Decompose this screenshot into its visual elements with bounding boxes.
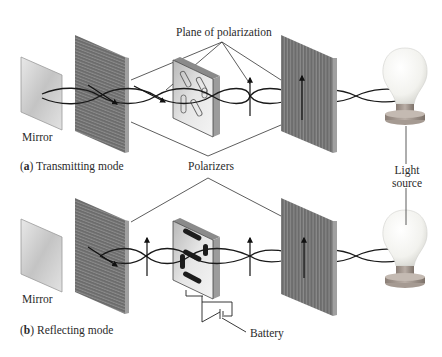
lcd-polarization-diagram: Plane of polarization Mirror (a) Transmi… bbox=[0, 0, 442, 357]
polarizer-2-bottom bbox=[281, 198, 337, 316]
caption-b: (b) Reflecting mode bbox=[20, 324, 113, 337]
light-source-label-line1: Light bbox=[390, 164, 424, 177]
panel-b-reflecting bbox=[21, 178, 427, 332]
panel-a-transmitting bbox=[21, 35, 427, 164]
mirror-top bbox=[21, 57, 62, 130]
plane-of-polarization-label: Plane of polarization bbox=[176, 26, 272, 39]
caption-a: (a) Transmitting mode bbox=[20, 160, 124, 173]
light-bulb-bottom bbox=[383, 210, 427, 288]
light-bulb-top bbox=[383, 48, 427, 125]
caption-a-text: Transmitting mode bbox=[36, 160, 123, 172]
caption-a-letter: a bbox=[24, 160, 30, 172]
lcd-cell-bottom bbox=[173, 218, 220, 299]
light-source-label-line2: source bbox=[390, 177, 424, 190]
mirror-label-bottom: Mirror bbox=[22, 293, 53, 306]
caption-b-letter: b bbox=[24, 324, 30, 336]
caption-b-text: Reflecting mode bbox=[37, 324, 113, 336]
battery-label: Battery bbox=[250, 327, 284, 340]
polarizers-leaders-bottom bbox=[131, 178, 281, 222]
mirror-bottom bbox=[21, 219, 62, 292]
diagram-graphics bbox=[0, 0, 442, 357]
mirror-label-top: Mirror bbox=[22, 131, 53, 144]
light-wave-bottom bbox=[100, 249, 405, 264]
polarizers-label: Polarizers bbox=[188, 160, 234, 173]
light-source-label: Light source bbox=[390, 164, 424, 190]
polarizer-2-top bbox=[281, 35, 337, 153]
